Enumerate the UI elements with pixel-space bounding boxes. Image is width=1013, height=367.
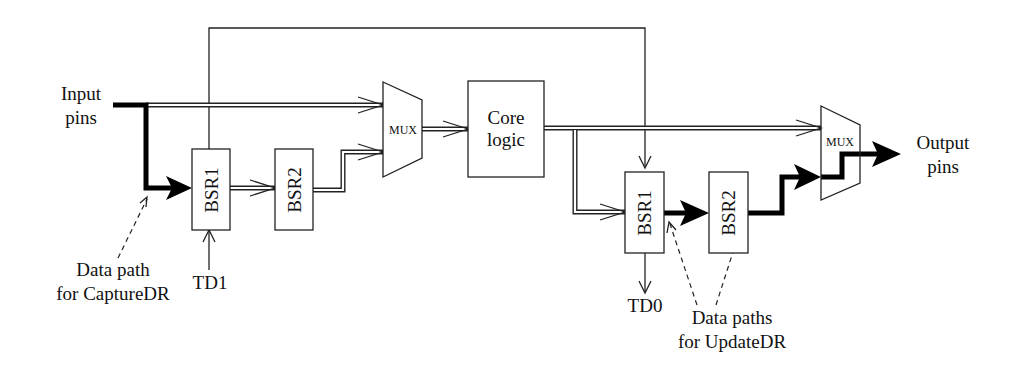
tdo-connector — [639, 253, 651, 293]
capture-data-path — [113, 105, 192, 200]
left-mux-label: MUX — [389, 123, 417, 137]
tdi-label: TD1 — [193, 272, 228, 293]
left-mux-block: MUX — [383, 82, 422, 177]
core-logic-block: Core logic — [468, 81, 544, 177]
core-logic-label-line1: Core — [488, 107, 525, 128]
input-pins-label-line1: Input — [61, 83, 102, 104]
left-bsr1-label: BSR1 — [201, 167, 222, 212]
right-bsr2-label: BSR2 — [718, 190, 739, 235]
left-bsr1-block: BSR1 — [192, 149, 230, 230]
right-mux-block: MUX — [821, 106, 860, 200]
capture-annotation-line2: for CaptureDR — [56, 283, 170, 304]
tdi-connector — [203, 230, 215, 270]
right-bsr1-block: BSR1 — [625, 172, 664, 253]
right-mux-label: MUX — [826, 135, 854, 149]
capture-annotation-line1: Data path — [76, 259, 150, 280]
output-pins-label-line2: pins — [927, 156, 959, 177]
bsr1-to-bsr2-bus-left — [230, 180, 275, 196]
mux-to-core-bus — [422, 121, 468, 137]
output-pins-label-line1: Output — [917, 132, 971, 153]
update-annotation-line2: for UpdateDR — [678, 331, 786, 352]
tdo-label: TD0 — [628, 295, 663, 316]
update-annotation-line1: Data paths — [692, 307, 773, 328]
right-bsr2-block: BSR2 — [709, 172, 748, 253]
boundary-scan-diagram: BSR1 BSR2 MUX Core logic BSR1 BSR2 MUX I… — [0, 0, 1013, 367]
scan-chain-connector — [209, 28, 651, 168]
right-bsr1-label: BSR1 — [634, 190, 655, 235]
update-data-path — [664, 141, 901, 226]
left-bsr2-label: BSR2 — [284, 167, 305, 212]
bsr2-to-mux-bus-left — [313, 144, 383, 190]
left-bsr2-block: BSR2 — [275, 149, 313, 230]
input-pins-label-line2: pins — [65, 107, 97, 128]
capture-annotation-pointer — [118, 197, 147, 258]
core-logic-label-line2: logic — [487, 129, 525, 150]
input-to-mux-bus — [146, 97, 383, 113]
